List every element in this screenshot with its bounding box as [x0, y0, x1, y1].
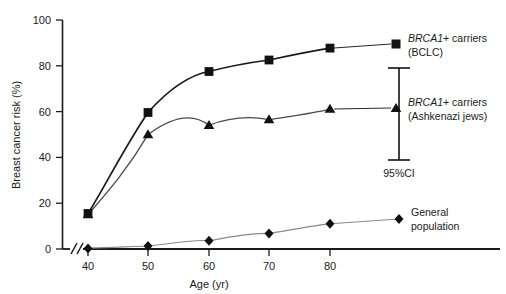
- legend-label-general-line2: population: [411, 220, 460, 232]
- y-tick-label-100: 100: [33, 14, 51, 26]
- data-point-ashkenazi-80: [325, 104, 336, 113]
- leader-line-general-population: [334, 219, 399, 224]
- x-tick-label-70: 70: [263, 260, 275, 272]
- data-point-ashkenazi-50: [143, 129, 154, 138]
- data-point-bclc-50: [144, 108, 153, 117]
- legend-marker-square-icon: [392, 40, 401, 49]
- axis-break-slash-2: [77, 243, 83, 254]
- y-tick-label-40: 40: [39, 151, 51, 163]
- x-tick-label-40: 40: [82, 260, 94, 272]
- y-axis: 100 80 60 40 20 0 Breast cancer risk (%): [10, 14, 63, 255]
- legend-gene-name-ashkenazi: BRCA1: [408, 96, 443, 108]
- legend-gene-name-bclc: BRCA1: [408, 32, 443, 44]
- legend-label-bclc-line1: BRCA1+ carriers: [408, 32, 487, 44]
- series-markers-bclc: [84, 44, 335, 218]
- leader-line-ashkenazi: [334, 108, 391, 109]
- series-brca1-bclc: [84, 44, 391, 218]
- data-point-bclc-70: [265, 56, 274, 65]
- x-tick-label-80: 80: [324, 260, 336, 272]
- series-markers-ashkenazi: [83, 104, 336, 219]
- breast-cancer-risk-line-chart: 100 80 60 40 20 0 Breast cancer risk (%)…: [0, 0, 506, 294]
- x-tick-label-60: 60: [203, 260, 215, 272]
- x-tick-label-50: 50: [142, 260, 154, 272]
- chart-figure: 100 80 60 40 20 0 Breast cancer risk (%)…: [0, 0, 506, 294]
- data-point-general-40: [84, 244, 93, 254]
- data-point-general-80: [326, 219, 335, 229]
- legend: BRCA1+ carriers (BCLC) BRCA1+ carriers (…: [391, 32, 488, 232]
- data-point-bclc-40: [84, 209, 93, 218]
- legend-entry-ashkenazi[interactable]: BRCA1+ carriers (Ashkenazi jews): [391, 96, 488, 122]
- x-axis-title: Age (yr): [189, 278, 228, 290]
- series-brca1-ashkenazi: [83, 104, 391, 219]
- leader-line-bclc: [334, 44, 391, 48]
- data-point-bclc-60: [205, 67, 214, 76]
- x-axis: 40 50 60 70 80 Age (yr): [63, 243, 501, 290]
- data-point-general-60: [205, 236, 214, 246]
- legend-label-ashkenazi-rest: + carriers: [443, 96, 487, 108]
- ci-label: 95%CI: [383, 167, 415, 179]
- confidence-interval-bar: 95%CI: [383, 68, 415, 179]
- y-tick-label-80: 80: [39, 60, 51, 72]
- legend-label-ashkenazi-line1: BRCA1+ carriers: [408, 96, 487, 108]
- axis-break-slash-1: [71, 243, 77, 254]
- legend-marker-diamond-icon: [395, 214, 404, 224]
- data-point-general-70: [265, 228, 274, 238]
- data-point-bclc-80: [326, 44, 335, 53]
- legend-label-ashkenazi-line2: (Ashkenazi jews): [408, 110, 487, 122]
- y-tick-label-0: 0: [45, 243, 51, 255]
- legend-entry-general-population[interactable]: General population: [395, 206, 460, 232]
- legend-label-bclc-rest: + carriers: [443, 32, 487, 44]
- legend-label-bclc-line2: (BCLC): [408, 46, 443, 58]
- legend-label-general-line1: General: [411, 206, 448, 218]
- legend-entry-bclc[interactable]: BRCA1+ carriers (BCLC): [392, 32, 488, 58]
- y-axis-title: Breast cancer risk (%): [10, 81, 22, 189]
- y-tick-label-60: 60: [39, 106, 51, 118]
- y-tick-label-20: 20: [39, 197, 51, 209]
